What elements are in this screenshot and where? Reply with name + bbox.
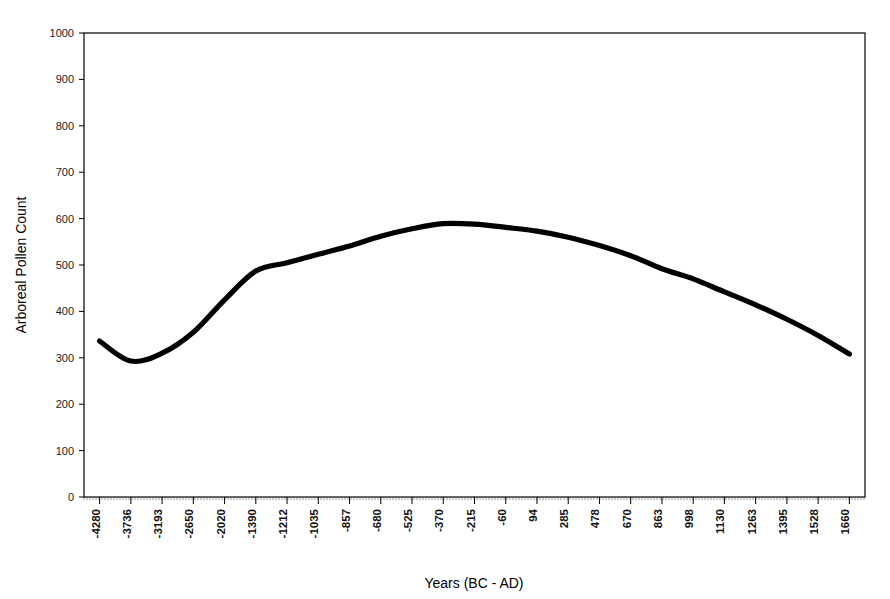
- x-tick-label: -1035: [308, 508, 320, 538]
- plot-frame: [84, 33, 865, 497]
- x-tick-label: 1395: [777, 508, 789, 534]
- x-tick-label: -1212: [277, 509, 289, 538]
- y-tick-label: 500: [56, 259, 74, 271]
- y-tick-label: 0: [68, 491, 74, 503]
- x-tick-label: -2020: [215, 509, 227, 538]
- x-tick-label: 1528: [808, 508, 820, 534]
- x-tick-label: 1130: [714, 509, 726, 534]
- x-axis: -4280-3736-3193-2650-2020-1390-1212-1035…: [84, 497, 864, 538]
- x-tick-label: -370: [433, 509, 445, 532]
- x-tick-label: -60: [496, 509, 508, 526]
- x-tick-label: 998: [683, 508, 695, 528]
- y-tick-label: 900: [56, 73, 74, 85]
- y-tick-label: 300: [56, 352, 74, 364]
- x-tick-label: 863: [652, 509, 664, 528]
- x-tick-label: 94: [527, 508, 539, 521]
- x-tick-label: -3193: [152, 509, 164, 538]
- pollen-count-line-chart: 01002003004005006007008009001000 -4280-3…: [0, 0, 890, 599]
- y-tick-label: 400: [56, 305, 74, 317]
- x-axis-title: Years (BC - AD): [424, 575, 523, 591]
- pollen-count-curve: [100, 223, 850, 361]
- x-tick-label: -3736: [121, 509, 133, 538]
- x-tick-label: 1660: [839, 509, 851, 535]
- chart-figure: 01002003004005006007008009001000 -4280-3…: [0, 0, 890, 599]
- x-tick-label: -525: [402, 508, 414, 532]
- y-axis-title: Arboreal Pollen Count: [13, 196, 29, 333]
- x-tick-label: -680: [371, 509, 383, 532]
- x-tick-label: 670: [621, 509, 633, 528]
- y-tick-label: 700: [56, 166, 74, 178]
- x-tick-label: -4280: [90, 509, 102, 538]
- x-tick-label: 478: [589, 508, 601, 528]
- x-tick-label: -215: [465, 508, 477, 532]
- y-tick-label: 800: [56, 120, 74, 132]
- y-axis: 01002003004005006007008009001000: [50, 27, 84, 503]
- x-tick-label: 285: [558, 508, 570, 528]
- x-tick-label: -1390: [246, 509, 258, 538]
- x-tick-label: 1263: [746, 509, 758, 535]
- y-tick-label: 1000: [50, 27, 74, 39]
- y-tick-label: 200: [56, 398, 74, 410]
- y-tick-label: 600: [56, 213, 74, 225]
- x-tick-label: -857: [340, 509, 352, 532]
- y-tick-label: 100: [56, 445, 74, 457]
- x-tick-label: -2650: [183, 509, 195, 538]
